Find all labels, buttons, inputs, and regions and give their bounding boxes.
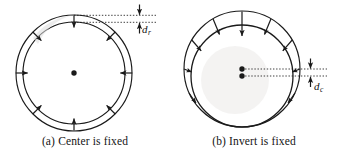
dimension-subscript: c (320, 85, 324, 94)
inward-arrow-lower-left (33, 105, 42, 114)
inward-arrow-left (184, 69, 192, 72)
caption-panel-a: (a) Center is fixed (0, 134, 170, 148)
dimension-symbol: d (314, 80, 320, 92)
dimension-subscript: r (148, 28, 151, 37)
inward-arrow-lower-right (107, 105, 116, 114)
center-dot (71, 70, 76, 75)
inward-arrow-upper-left-150 (192, 40, 201, 51)
inward-arrow-upper-right (107, 32, 116, 41)
dimension-label-dr: dr (142, 23, 151, 37)
figure-panel-a: dr (a) Center is fixed (0, 0, 170, 161)
inward-arrow-right (292, 69, 300, 72)
dimension-symbol: d (142, 23, 148, 35)
inward-arrow-upper-right-30 (283, 40, 292, 51)
dimension-label-dc: dc (314, 80, 323, 94)
caption-panel-b: (b) Invert is fixed (169, 134, 339, 148)
figure-container: dr (a) Center is fixed (0, 0, 339, 161)
interior-shading (201, 46, 269, 114)
